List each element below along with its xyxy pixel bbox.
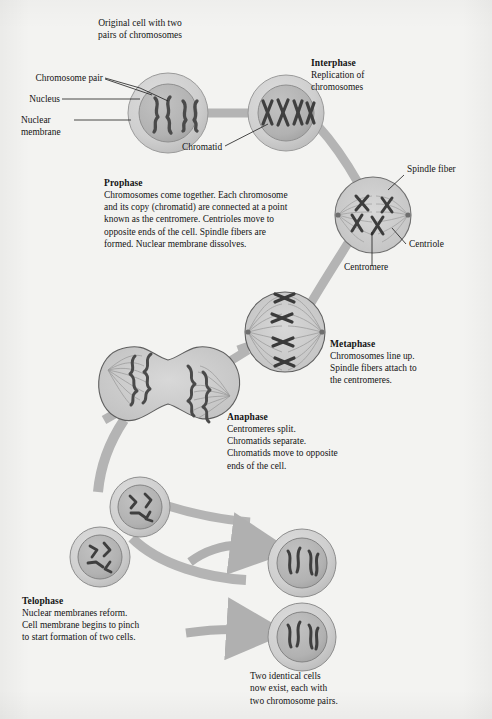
label-nucleus: Nucleus xyxy=(0,93,60,105)
daughter-cell-lower xyxy=(268,603,336,671)
phase-prophase-line-5: formed. Nuclear membrane dissolves. xyxy=(104,238,354,250)
label-centromere: Centromere xyxy=(344,261,424,273)
diagram-header: Original cell with two pairs of chromoso… xyxy=(60,17,220,42)
arrow-to-daughter-1 xyxy=(190,545,250,562)
anaphase-cell xyxy=(99,347,240,422)
phase-prophase: Prophase Chromosomes come together. Each… xyxy=(104,177,354,250)
phase-prophase-line-2: and its copy (chromatid) are connected a… xyxy=(104,201,354,213)
phase-anaphase-line-4: ends of the cell. xyxy=(227,460,397,472)
centriole-right xyxy=(405,212,410,217)
label-centriole: Centriole xyxy=(409,238,479,250)
label-nuclear-membrane-line-1: Nuclear xyxy=(21,114,93,126)
phase-prophase-line-1: Chromosomes come together. Each chromoso… xyxy=(104,189,354,201)
footer-caption: Two identical cells now exist, each with… xyxy=(250,670,420,707)
ribbon-anaphase-to-telophase xyxy=(98,420,124,492)
label-chromosome-pair: Chromosome pair xyxy=(0,72,103,84)
header-line-2: pairs of chromosomes xyxy=(60,29,220,41)
daughter-cell-upper xyxy=(268,529,336,597)
phase-interphase-line-2: chromosomes xyxy=(311,81,421,93)
footer-line-1: Two identical cells xyxy=(250,670,420,682)
phase-prophase-line-3: known as the centromere. Centrioles move… xyxy=(104,213,354,225)
label-chromatid: Chromatid xyxy=(182,141,242,153)
phase-interphase-line-1: Replication of xyxy=(311,69,421,81)
label-nuclear-membrane: Nuclear membrane xyxy=(21,114,93,138)
phase-metaphase-line-2: Spindle fibers attach to xyxy=(330,362,480,374)
phase-anaphase: Anaphase Centromeres split. Chromatids s… xyxy=(227,411,397,472)
phase-telophase-line-2: Cell membrane begins to pinch xyxy=(22,619,212,631)
phase-telophase-line-3: to start formation of two cells. xyxy=(22,631,212,643)
chromosome-4 xyxy=(194,101,197,131)
telophase-cell-lower xyxy=(70,527,130,587)
phase-telophase-title: Telophase xyxy=(22,595,212,607)
ribbon-prophase-to-metaphase xyxy=(306,243,348,312)
phase-metaphase-line-1: Chromosomes line up. xyxy=(330,350,480,362)
phase-prophase-title: Prophase xyxy=(104,177,354,189)
metaphase-cell xyxy=(245,292,325,372)
mitosis-diagram: Original cell with two pairs of chromoso… xyxy=(0,0,492,719)
phase-telophase: Telophase Nuclear membranes reform. Cell… xyxy=(22,595,212,644)
footer-line-2: now exist, each with xyxy=(250,682,420,694)
metaphase-centriole-right xyxy=(319,329,324,334)
label-nuclear-membrane-line-2: membrane xyxy=(21,126,93,138)
phase-anaphase-title: Anaphase xyxy=(227,411,397,423)
label-spindle-fiber: Spindle fiber xyxy=(407,163,487,175)
phase-interphase-title: Interphase xyxy=(311,57,421,69)
phase-metaphase-title: Metaphase xyxy=(330,338,480,350)
phase-telophase-line-1: Nuclear membranes reform. xyxy=(22,607,212,619)
telophase-cell-upper xyxy=(110,477,170,537)
metaphase-centriole-left xyxy=(245,329,250,334)
ribbon-telophase-upper xyxy=(168,506,250,522)
header-line-1: Original cell with two xyxy=(60,17,220,29)
phase-metaphase: Metaphase Chromosomes line up. Spindle f… xyxy=(330,338,480,387)
phase-metaphase-line-3: the centromeres. xyxy=(330,374,480,386)
phase-anaphase-line-1: Centromeres split. xyxy=(227,423,397,435)
phase-anaphase-line-2: Chromatids separate. xyxy=(227,435,397,447)
phase-prophase-line-4: opposite ends of the cell. Spindle fiber… xyxy=(104,226,354,238)
phase-interphase: Interphase Replication of chromosomes xyxy=(311,57,421,93)
footer-line-3: two chromosome pairs. xyxy=(250,695,420,707)
phase-anaphase-line-3: Chromatids move to opposite xyxy=(227,447,397,459)
